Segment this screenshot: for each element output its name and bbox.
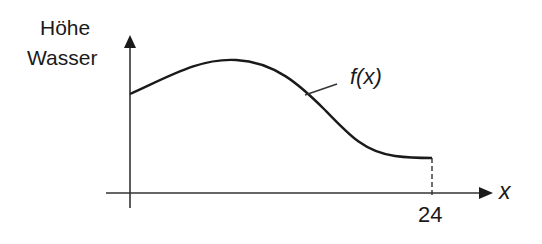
- x-tick-label-24: 24: [418, 204, 442, 226]
- x-axis-label: x: [499, 180, 511, 203]
- y-axis-arrow-icon: [124, 35, 136, 48]
- curve-label: f(x): [350, 66, 382, 88]
- y-axis-label-line2: Wasser: [27, 47, 97, 68]
- y-axis-label-line1: Höhe: [40, 17, 90, 38]
- x-axis-arrow-icon: [479, 187, 493, 199]
- curve-label-leader: [305, 84, 337, 95]
- curve-f-x: [130, 60, 432, 158]
